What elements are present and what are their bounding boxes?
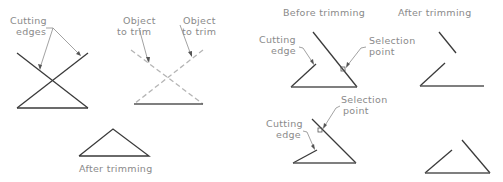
object-line	[313, 32, 357, 87]
dashed-object-line-1	[131, 50, 203, 104]
objects-to-trim-figure: Object to trim Object to trim	[117, 15, 216, 104]
selection-point-label-line2: point	[369, 46, 395, 57]
cutting-edge-line	[293, 150, 317, 163]
before-trimming-caption: Before trimming	[283, 7, 365, 18]
cutting-edges-figure: Cutting edges	[10, 15, 88, 108]
cutting-edges-label-line1: Cutting	[10, 15, 47, 26]
cutting-edge-line	[420, 63, 445, 86]
leader-line	[53, 28, 80, 55]
trimmed-line	[462, 140, 490, 173]
arrow-icon	[188, 51, 192, 57]
cutting-edge-label-line1: Cutting	[266, 118, 303, 129]
leader-line	[324, 106, 340, 127]
trimmed-triangle	[79, 129, 149, 156]
after-trimming-figure-left: After trimming	[79, 129, 153, 174]
before-trimming-figure-top: Cutting edge Selection point	[259, 32, 415, 87]
after-trimming-caption-right: After trimming	[398, 7, 472, 18]
selection-point-label-line2: point	[343, 105, 369, 116]
trim-diagram: Cutting edges Object to trim Object to t…	[0, 0, 503, 182]
object-to-trim-label-2-line1: Object	[183, 15, 216, 26]
leader-line	[347, 47, 366, 66]
selection-point-label-line1: Selection	[369, 35, 415, 46]
before-trimming-figure-bottom: Selection point Cutting edge	[266, 94, 387, 163]
arrow-icon	[311, 144, 315, 150]
after-trimming-figure-top	[420, 32, 484, 86]
object-to-trim-label-1-line2: to trim	[117, 26, 151, 37]
object-line	[312, 119, 356, 163]
cutting-edge-line	[291, 64, 316, 87]
selection-point-label-line1: Selection	[341, 94, 387, 105]
object-to-trim-label-1-line1: Object	[123, 15, 156, 26]
cutting-edge-label-line2: edge	[276, 129, 301, 140]
cutting-edge-label-line1: Cutting	[259, 34, 296, 45]
after-trimming-caption: After trimming	[79, 163, 153, 174]
cutting-edges-label-line2: edges	[16, 26, 46, 37]
cutting-edge-line	[425, 150, 452, 173]
cutting-edge-label-line2: edge	[271, 45, 296, 56]
after-trimming-figure-bottom	[425, 140, 490, 173]
object-to-trim-label-2-line2: to trim	[182, 26, 216, 37]
trimmed-line	[439, 32, 456, 53]
